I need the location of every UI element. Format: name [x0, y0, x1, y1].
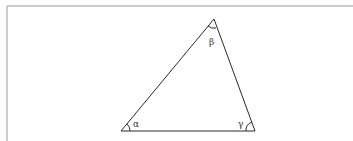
- alpha-label: α: [133, 119, 139, 129]
- triangle-diagram: α β γ: [0, 0, 353, 141]
- triangle-shape: [121, 19, 255, 131]
- beta-label: β: [209, 37, 214, 47]
- gamma-label: γ: [238, 119, 243, 129]
- gamma-angle-arc: [246, 122, 252, 131]
- alpha-angle-arc: [127, 124, 130, 131]
- beta-angle-arc: [208, 26, 216, 28]
